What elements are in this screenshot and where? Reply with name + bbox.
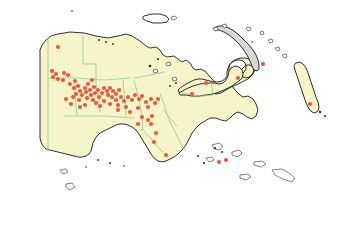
occurrence-dot <box>152 140 156 144</box>
islet-darkislet-vitiaz-2 <box>157 58 159 60</box>
occurrence-dot <box>122 99 126 103</box>
occurrence-dot <box>154 131 158 135</box>
occurrence-dot <box>156 97 160 101</box>
occurrence-dot <box>128 110 132 114</box>
occurrence-dot <box>64 97 68 101</box>
occurrence-dot <box>164 153 168 157</box>
occurrence-dot <box>149 122 153 126</box>
occurrence-dot <box>140 115 144 119</box>
island-islet-vitiaz-b <box>166 62 171 66</box>
distribution-map-canvas <box>0 0 342 225</box>
islet-darkislet-sepik-1 <box>98 39 100 41</box>
islet-darkislet-milne-2 <box>221 151 223 153</box>
occurrence-dot <box>144 100 148 104</box>
occurrence-dot <box>130 98 134 102</box>
occurrence-dot <box>84 90 88 94</box>
occurrence-dot <box>56 77 60 81</box>
islet-darkislet-papua-1 <box>97 159 99 161</box>
occurrence-dot <box>116 103 120 107</box>
occurrence-dot <box>91 98 95 102</box>
occurrence-dot <box>116 108 120 112</box>
occurrence-dot <box>146 105 150 109</box>
occurrence-dot <box>110 95 114 99</box>
occurrence-dot <box>85 96 89 100</box>
islet-darkislet-bougainville-2 <box>324 115 326 117</box>
occurrence-dot <box>102 99 106 103</box>
occurrence-dot <box>62 71 66 75</box>
occurrence-dot <box>71 95 75 99</box>
occurrence-dot <box>261 62 265 66</box>
occurrence-dot <box>69 102 73 106</box>
occurrence-dot <box>126 95 130 99</box>
occurrence-dot <box>136 122 140 126</box>
occurrence-dot <box>105 89 109 93</box>
occurrence-dot <box>83 103 87 107</box>
occurrence-dot <box>117 88 121 92</box>
occurrence-dot <box>146 118 150 122</box>
islet-darkislet-sepik-3 <box>112 43 114 45</box>
islet-darkislet-papua-2 <box>109 162 111 164</box>
occurrence-dot <box>83 86 87 90</box>
occurrence-dot <box>114 92 118 96</box>
occurrence-dot <box>93 91 97 95</box>
occurrence-dot <box>73 79 77 83</box>
islet-darkislet-papua-3 <box>85 166 87 168</box>
occurrence-dot <box>51 75 55 79</box>
occurrence-dot <box>190 92 194 96</box>
occurrence-dot <box>119 95 123 99</box>
occurrence-dot <box>108 86 112 90</box>
occurrence-dot <box>80 93 84 97</box>
occurrence-dot <box>74 92 78 96</box>
occurrence-dot <box>90 78 94 82</box>
islet-darkislet-newireland-1 <box>251 41 253 43</box>
occurrence-dot <box>236 76 240 80</box>
islet-darkislet-newbritain-1 <box>175 82 177 84</box>
occurrence-dot <box>308 102 312 106</box>
island-islet-vitiaz-a <box>153 69 158 73</box>
occurrence-dot <box>61 78 65 82</box>
occurrence-dot <box>97 95 101 99</box>
islet-darkislet-sepik-2 <box>105 41 107 43</box>
occurrence-dot <box>96 88 100 92</box>
occurrence-dot <box>124 105 128 109</box>
occurrence-dot <box>217 160 221 164</box>
occurrence-dot <box>224 158 228 162</box>
occurrence-dot <box>68 82 72 86</box>
occurrence-dot <box>76 84 80 88</box>
occurrence-dot <box>100 91 104 95</box>
occurrence-dot <box>98 104 102 108</box>
occurrence-dot <box>56 45 60 49</box>
occurrence-dot <box>78 89 82 93</box>
islet-darkislet-milne-3 <box>197 155 199 157</box>
islet-darkislet-bougainville-1 <box>319 111 321 113</box>
occurrence-dot <box>114 98 118 102</box>
islet-darkislet-papua-4 <box>123 165 125 167</box>
occurrence-dot <box>89 93 93 97</box>
occurrence-dot <box>92 85 96 89</box>
occurrence-dot <box>86 82 90 86</box>
occurrence-dot <box>149 97 153 101</box>
occurrence-dot <box>88 88 92 92</box>
occurrence-dot <box>66 73 70 77</box>
occurrence-dot <box>133 93 137 97</box>
islet-darkislet-vitiaz-1 <box>149 65 152 68</box>
occurrence-dot <box>136 106 140 110</box>
occurrence-dot <box>137 97 141 101</box>
occurrence-dot <box>108 102 112 106</box>
occurrence-dot <box>140 94 144 98</box>
occurrence-dot <box>72 86 76 90</box>
island-islet-siassi <box>172 77 177 81</box>
islet-darkislet-newbritain-2 <box>169 85 171 87</box>
island-islet-north-b <box>260 31 264 35</box>
occurrence-dot <box>54 72 58 76</box>
occurrence-dot <box>77 98 81 102</box>
islet-darkislet-milne-1 <box>214 147 216 149</box>
occurrence-dot <box>106 93 110 97</box>
occurrence-dot <box>111 89 115 93</box>
islet-darkislet-milne-4 <box>203 162 205 164</box>
occurrence-dot <box>94 101 98 105</box>
occurrence-dot <box>150 114 154 118</box>
occurrence-dot <box>78 105 82 109</box>
occurrence-dot <box>153 101 157 105</box>
islet-darkislet-north-1 <box>71 10 73 12</box>
